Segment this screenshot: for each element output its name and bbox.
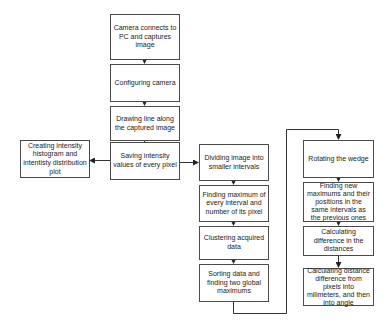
node-convert-to-angle: Calculating distance difference from pix… bbox=[303, 268, 374, 306]
node-configure-camera: Configuring camera bbox=[110, 64, 180, 102]
node-label: Rotating the wedge bbox=[308, 155, 368, 164]
node-draw-line: Drawing line along the captured image bbox=[110, 106, 180, 141]
node-label: Camera connects to PC and captures image bbox=[113, 24, 177, 50]
node-label: Calculating difference in the distances bbox=[306, 228, 371, 254]
node-save-intensity: Saving intensity values of every pixel bbox=[110, 142, 180, 180]
node-label: Clustering acquired data bbox=[202, 234, 266, 251]
node-label: Dividing image into smaller intervals bbox=[202, 154, 266, 171]
node-label: Creating intensity histogram and intenti… bbox=[23, 142, 87, 176]
node-label: Drawing line along the captured image bbox=[113, 115, 177, 132]
node-rotate-wedge: Rotating the wedge bbox=[303, 140, 374, 178]
node-divide-intervals: Dividing image into smaller intervals bbox=[199, 144, 269, 181]
node-calc-difference: Calculating difference in the distances bbox=[303, 226, 374, 256]
node-find-maximum: Finding maximum of every interval and nu… bbox=[199, 185, 269, 222]
node-histogram: Creating intensity histogram and intenti… bbox=[20, 140, 90, 178]
node-find-new-maximums: Finding new maximums and their positions… bbox=[303, 182, 374, 222]
node-label: Configuring camera bbox=[114, 79, 175, 88]
node-label: Finding new maximums and their positions… bbox=[306, 182, 371, 222]
node-label: Finding maximum of every interval and nu… bbox=[202, 191, 266, 217]
node-sort-data: Sorting data and finding two global maxi… bbox=[199, 264, 269, 302]
node-label: Sorting data and finding two global maxi… bbox=[202, 270, 266, 296]
node-camera-connect: Camera connects to PC and captures image bbox=[110, 14, 180, 60]
node-cluster-data: Clustering acquired data bbox=[199, 226, 269, 260]
node-label: Calculating distance difference from pix… bbox=[306, 267, 371, 307]
node-label: Saving intensity values of every pixel bbox=[113, 152, 177, 169]
